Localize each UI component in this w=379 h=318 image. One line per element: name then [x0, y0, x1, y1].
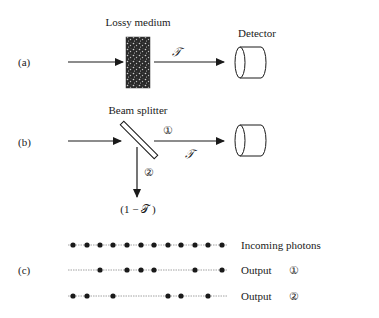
detector-icon-b [235, 125, 266, 156]
panel-c-label: (c) [18, 264, 31, 277]
photon-dot [192, 267, 197, 272]
beam-splitter-icon [120, 121, 157, 158]
lossy-medium-label: Lossy medium [105, 16, 171, 28]
photon-dot [70, 293, 75, 298]
photon-dot [205, 293, 210, 298]
photon-row-label: Output [241, 290, 272, 302]
output-2-marker: ② [144, 166, 154, 178]
photon-dot [151, 267, 156, 272]
photon-row: Output② [68, 290, 299, 302]
photon-dot [165, 293, 170, 298]
detector-label: Detector [238, 27, 276, 39]
diagram-canvas: (a) Lossy medium 𝒯 Detector (b) Beam spl… [0, 0, 379, 318]
photon-dot [219, 242, 224, 247]
detector-icon [235, 47, 266, 78]
photon-dot [178, 293, 183, 298]
output-marker: ② [289, 290, 299, 302]
photon-dot [84, 293, 89, 298]
panel-c: (c) Incoming photonsOutput①Output② [18, 239, 321, 302]
panel-a: (a) Lossy medium 𝒯 Detector [18, 16, 276, 88]
photon-dot [219, 267, 224, 272]
photon-dot [205, 242, 210, 247]
photon-row-label: Incoming photons [241, 239, 321, 251]
photon-dot [70, 242, 75, 247]
beam-splitter-label: Beam splitter [109, 104, 168, 116]
photon-rows: Incoming photonsOutput①Output② [68, 239, 321, 302]
panel-b: (b) Beam splitter ① 𝒯 ② (1 − 𝒯 ) [18, 104, 266, 216]
photon-dot [178, 242, 183, 247]
photon-row: Output① [68, 264, 299, 276]
output-marker: ① [289, 264, 299, 276]
photon-row-label: Output [241, 264, 272, 276]
photon-dot [97, 267, 102, 272]
photon-dot [110, 242, 115, 247]
photon-row: Incoming photons [68, 239, 321, 251]
photon-dot [124, 242, 129, 247]
output-1-marker: ① [163, 124, 173, 136]
panel-b-label: (b) [18, 136, 31, 149]
photon-dot [165, 242, 170, 247]
photon-dot [110, 293, 115, 298]
photon-dot [138, 267, 143, 272]
transmission-label-b: 𝒯 [185, 147, 198, 161]
photon-dot [84, 242, 89, 247]
photon-dot [124, 267, 129, 272]
photon-dot [97, 242, 102, 247]
lossy-medium-block [126, 37, 150, 88]
reflection-label: (1 − 𝒯 ) [120, 203, 156, 216]
photon-dot [192, 242, 197, 247]
transmission-label: 𝒯 [172, 45, 185, 59]
photon-dot [138, 242, 143, 247]
panel-a-label: (a) [18, 56, 31, 69]
photon-dot [151, 242, 156, 247]
